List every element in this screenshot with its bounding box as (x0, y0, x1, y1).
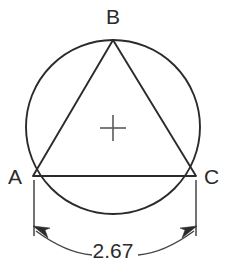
dimension-value-label: 2.67 (93, 239, 134, 262)
vertex-label-a: A (8, 165, 22, 188)
figure-canvas: B A C 2.67 (0, 0, 225, 274)
dimension-arrowhead-left (33, 226, 50, 238)
vertex-label-b: B (106, 5, 120, 28)
vertex-label-c: C (204, 165, 219, 188)
dimension-arrowhead-right (180, 226, 197, 238)
geometry-figure: B A C 2.67 (0, 0, 225, 274)
center-cross-icon (100, 115, 126, 141)
